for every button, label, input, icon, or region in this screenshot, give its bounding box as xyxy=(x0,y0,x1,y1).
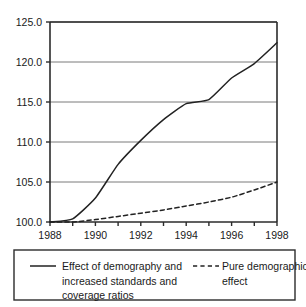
y-tick-label: 125.0 xyxy=(16,16,42,28)
y-axis-tick-labels: 100.0105.0110.0115.0120.0125.0 xyxy=(16,16,42,228)
x-tick-label: 1990 xyxy=(84,229,108,241)
y-tick-label: 110.0 xyxy=(17,136,43,148)
y-tick-label: 105.0 xyxy=(16,176,42,188)
y-tick-label: 115.0 xyxy=(17,96,43,108)
x-tick-label: 1998 xyxy=(265,229,289,241)
x-tick-label: 1992 xyxy=(129,229,153,241)
x-axis-tick-labels: 198819901992199419961998 xyxy=(38,229,289,241)
line-chart: 100.0105.0110.0115.0120.0125.0 198819901… xyxy=(0,0,306,307)
y-tick-label: 100.0 xyxy=(16,216,42,228)
y-tick-label: 120.0 xyxy=(16,56,42,68)
plot-background xyxy=(50,22,277,222)
x-tick-label: 1996 xyxy=(220,229,244,241)
chart-figure: 100.0105.0110.0115.0120.0125.0 198819901… xyxy=(0,0,306,307)
x-tick-label: 1988 xyxy=(38,229,62,241)
x-tick-label: 1994 xyxy=(175,229,199,241)
